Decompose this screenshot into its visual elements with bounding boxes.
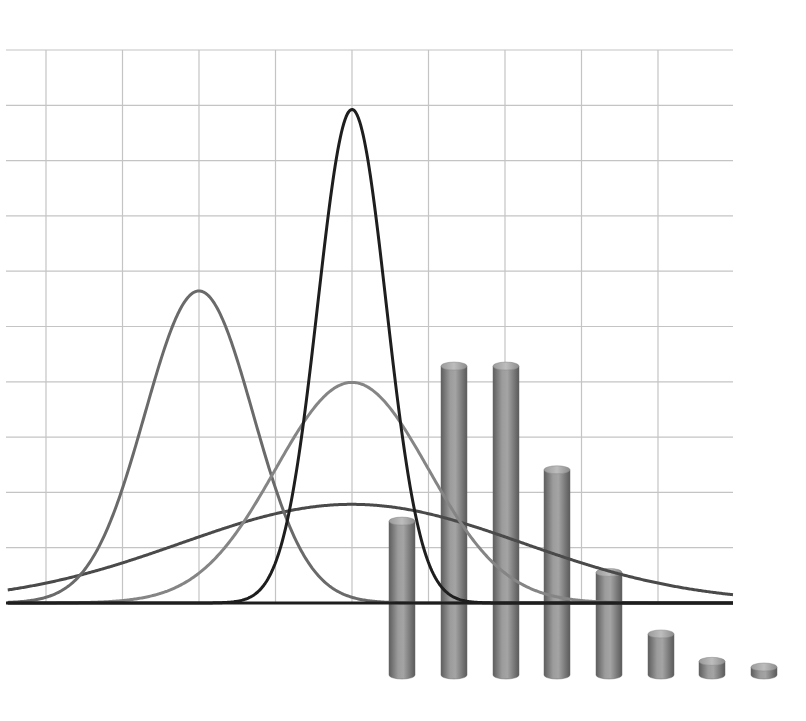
- cylinder-bars: [389, 362, 777, 679]
- density-curve: [8, 291, 733, 603]
- cylinder-bar: [751, 663, 777, 679]
- density-curves: [6, 109, 733, 603]
- cylinder-bar: [544, 466, 570, 679]
- cylinder-bar: [596, 568, 622, 679]
- cylinder-bar: [699, 657, 725, 679]
- chart-root: [0, 0, 806, 721]
- cylinder-bar: [389, 517, 415, 679]
- cylinder-bar: [493, 362, 519, 679]
- distribution-chart: [0, 0, 806, 721]
- cylinder-bar: [648, 630, 674, 679]
- grid-lines: [6, 50, 733, 603]
- density-curve: [8, 504, 733, 594]
- density-curve: [8, 109, 733, 603]
